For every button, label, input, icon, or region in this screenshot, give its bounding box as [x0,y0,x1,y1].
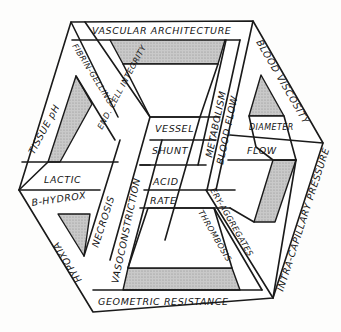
bottom-shaded-panel [123,268,240,290]
label-rate: RATE [150,195,177,206]
impossible-cube-diagram: VASCULAR ARCHITECTURE FIBRIN-GELLING END… [0,0,341,332]
label-flow: FLOW [247,145,277,156]
label-vascular-architecture: VASCULAR ARCHITECTURE [92,25,231,36]
top-shaded-panel [110,40,225,64]
label-diameter: DIAMETER [249,123,294,132]
label-lactic: LACTIC [44,174,81,185]
label-geometric-resistance: GEOMETRIC RESISTANCE [98,296,229,307]
cube-frame: VASCULAR ARCHITECTURE FIBRIN-GELLING END… [0,0,341,332]
label-vessel: VESSEL [155,123,194,134]
label-acid: ACID [152,176,179,187]
label-shunt: SHUNT [152,145,189,156]
